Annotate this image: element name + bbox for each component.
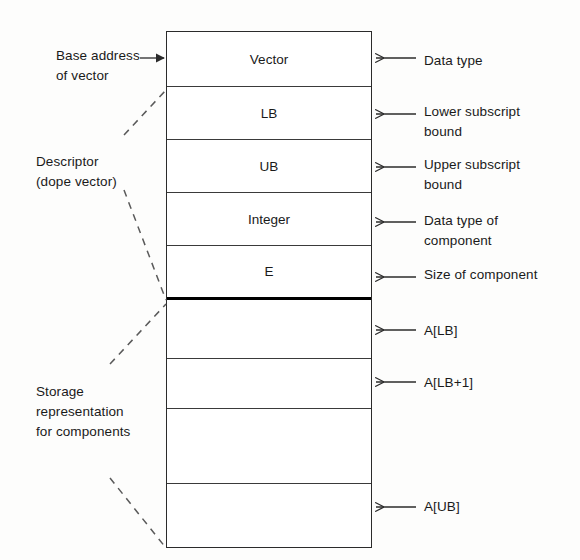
label-descriptor: Descriptor (dope vector) <box>36 152 117 192</box>
cell-elem-gap <box>167 409 371 484</box>
cell-vector: Vector <box>167 32 371 87</box>
diagram-canvas: VectorLBUBIntegerE Base address of vecto… <box>0 0 580 560</box>
cell-e: E <box>167 246 371 300</box>
label-element-ub: A[UB] <box>424 497 460 517</box>
label-data-type: Data type <box>424 51 483 71</box>
label-base-address: Base address of vector <box>56 46 140 86</box>
label-storage-representation: Storage representation for components <box>36 382 130 442</box>
label-element-lb-plus-1: A[LB+1] <box>424 373 473 393</box>
cell-elem-last <box>167 484 371 547</box>
cell-lb: LB <box>167 87 371 140</box>
brace-descriptor-top <box>124 90 166 135</box>
cell-integer: Integer <box>167 193 371 246</box>
cell-elem-2 <box>167 359 371 409</box>
label-lower-subscript-bound: Lower subscript bound <box>424 102 520 142</box>
cell-ub: UB <box>167 140 371 193</box>
brace-storage-bot <box>110 478 166 548</box>
vector-storage-box: VectorLBUBIntegerE <box>166 31 372 548</box>
label-data-type-of-component: Data type of component <box>424 211 498 251</box>
label-upper-subscript-bound: Upper subscript bound <box>424 155 520 195</box>
label-size-of-component: Size of component <box>424 265 538 285</box>
label-element-lb: A[LB] <box>424 321 458 341</box>
brace-storage-top <box>110 304 166 364</box>
cell-elem-1 <box>167 300 371 359</box>
brace-group <box>110 90 166 548</box>
brace-descriptor-bot <box>124 190 166 300</box>
